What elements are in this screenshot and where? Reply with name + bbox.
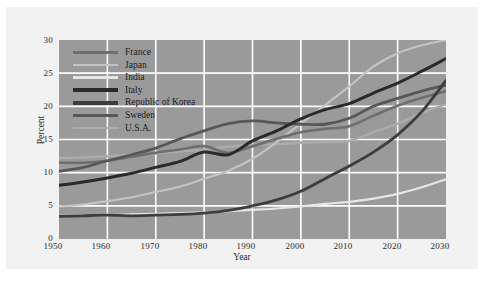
x-tick-1950: 1950: [33, 241, 73, 251]
x-tick-1980: 1980: [178, 241, 218, 251]
legend-item-france: France: [73, 46, 253, 59]
legend-label-usa: U.S.A.: [125, 122, 151, 135]
legend-item-india: India: [73, 71, 253, 84]
x-tick-2020: 2020: [372, 241, 412, 251]
x-tick-2010: 2010: [323, 241, 363, 251]
legend-item-usa: U.S.A.: [73, 122, 253, 135]
legend-label-republic-of-korea: Republic of Korea: [125, 96, 195, 109]
legend-swatch-italy: [73, 88, 118, 92]
legend-item-japan: Japan: [73, 59, 253, 72]
series-line-india: [59, 179, 446, 216]
y-axis-label: Percent: [36, 90, 46, 170]
y-tick-25: 25: [23, 68, 53, 78]
legend-swatch-india: [73, 76, 118, 79]
x-tick-2030: 2030: [420, 241, 460, 251]
x-tick-1970: 1970: [130, 241, 170, 251]
plot-area: France Japan India Italy Republic of Kor…: [59, 40, 446, 239]
x-tick-1960: 1960: [81, 241, 121, 251]
legend-label-italy: Italy: [125, 84, 142, 97]
legend-label-sweden: Sweden: [125, 109, 155, 122]
legend-label-france: France: [125, 46, 151, 59]
legend-item-sweden: Sweden: [73, 109, 253, 122]
legend-swatch-japan: [73, 64, 118, 67]
legend-swatch-republic-of-korea: [73, 101, 118, 105]
legend-swatch-sweden: [73, 114, 118, 117]
chart-page: 30 25 20 15 10 5 0 Percent: [0, 0, 484, 282]
legend-swatch-france: [73, 51, 118, 54]
x-tick-1990: 1990: [226, 241, 266, 251]
legend-label-japan: Japan: [125, 59, 147, 72]
legend-item-italy: Italy: [73, 84, 253, 97]
y-tick-5: 5: [23, 200, 53, 210]
legend-item-republic-of-korea: Republic of Korea: [73, 96, 253, 109]
legend: France Japan India Italy Republic of Kor…: [73, 46, 253, 134]
legend-swatch-usa: [73, 127, 118, 130]
x-tick-2000: 2000: [275, 241, 315, 251]
x-axis-label: Year: [0, 252, 484, 262]
legend-label-india: India: [125, 71, 145, 84]
y-tick-30: 30: [23, 35, 53, 45]
figure: 30 25 20 15 10 5 0 Percent: [6, 7, 478, 269]
